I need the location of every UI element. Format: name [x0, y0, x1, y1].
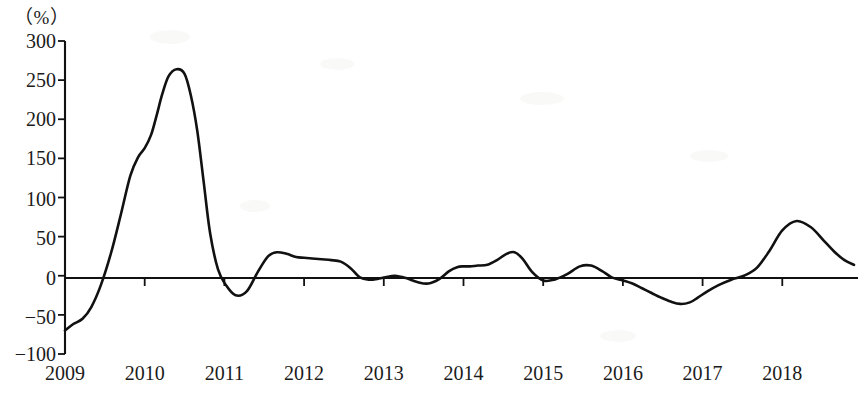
x-tick-label: 2016: [603, 362, 643, 385]
x-axis: [65, 278, 858, 286]
plot-area: [0, 0, 868, 396]
x-axis-tick-marks: [65, 278, 782, 286]
x-tick-label: 2017: [683, 362, 723, 385]
x-tick-label: 2012: [284, 362, 324, 385]
x-tick-label: 2011: [205, 362, 244, 385]
x-tick-label: 2010: [125, 362, 165, 385]
data-series-line: [65, 69, 854, 330]
x-tick-label: 2014: [443, 362, 483, 385]
x-tick-label: 2013: [364, 362, 404, 385]
x-tick-label: 2009: [45, 362, 85, 385]
line-chart: （%） 300 250 200 150 100 50 0 −50 −100 20…: [0, 0, 868, 396]
y-axis: [58, 41, 65, 354]
x-tick-label: 2018: [762, 362, 802, 385]
x-tick-label: 2015: [523, 362, 563, 385]
